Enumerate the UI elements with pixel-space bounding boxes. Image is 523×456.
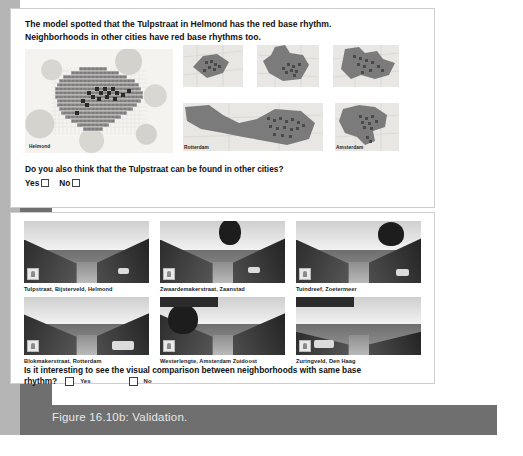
photo-address-overlay — [160, 297, 218, 307]
street-photo-blokmakerstraat[interactable] — [24, 297, 149, 355]
streetview-badge-icon — [163, 340, 175, 352]
streetview-badge-icon — [27, 268, 39, 280]
photo-caption-3: Tuindreef, Zoetermeer — [296, 286, 357, 292]
photo-car — [118, 268, 129, 274]
checkbox-yes-bottom[interactable] — [65, 377, 74, 386]
map-label-helmond: Helmond — [29, 144, 50, 149]
map-thumbnail-group: Zoetermeer Zaanstad — [183, 45, 423, 157]
intro-line-1: The model spotted that the Tulpstraat in… — [25, 18, 423, 31]
question-text-bottom-line-1: Is it interesting to see the visual comp… — [24, 365, 424, 375]
photo-vanishing-point — [349, 335, 369, 355]
photo-caption-6: Zuringveld, Den Haag — [296, 358, 356, 364]
photo-tree — [219, 221, 241, 245]
validation-panel-photos: Tulpstraat, Bijsterveld, Helmond Zwaarde… — [10, 212, 435, 384]
photo-vanishing-point — [213, 335, 233, 355]
map-den-haag[interactable]: Den Haag — [333, 45, 399, 87]
photo-caption-5: Westerlengte, Amsterdam Zuidoost — [160, 358, 257, 364]
map-zaanstad-shape — [257, 45, 319, 87]
option-label-yes-bottom: Yes — [80, 378, 90, 384]
map-helmond[interactable]: Helmond — [25, 49, 173, 153]
map-zaanstad[interactable]: Zaanstad — [257, 45, 319, 87]
street-photo-westerlengte[interactable] — [160, 297, 285, 355]
option-label-yes-top: Yes — [25, 178, 39, 188]
photo-car — [396, 269, 409, 276]
map-label-amsterdam: Amsterdam — [336, 145, 363, 150]
option-label-no-bottom: No — [144, 378, 152, 384]
figure-canvas: The model spotted that the Tulpstraat in… — [0, 0, 523, 456]
question-block-bottom: Is it interesting to see the visual comp… — [24, 365, 424, 386]
map-amsterdam-shape — [335, 103, 399, 151]
street-photo-zwaardemakerstraat[interactable] — [160, 221, 285, 283]
streetview-badge-icon — [27, 340, 39, 352]
map-den-haag-shape — [333, 45, 399, 87]
photo-sky — [24, 297, 149, 324]
checkbox-no-bottom[interactable] — [129, 377, 138, 386]
validation-panel-maps: The model spotted that the Tulpstraat in… — [10, 8, 435, 208]
photo-car — [248, 267, 260, 273]
photo-caption-4: Blokmakerstraat, Rotterdam — [24, 358, 102, 364]
map-zoetermeer-shape — [183, 45, 243, 87]
streetview-badge-icon — [163, 268, 175, 280]
photo-vanishing-point — [349, 262, 369, 283]
street-photo-zuringveld[interactable] — [296, 297, 421, 355]
question-text-top: Do you also think that the Tulpstraat ca… — [25, 164, 283, 174]
answer-options-top: Yes No — [25, 178, 283, 188]
option-label-no-top: No — [59, 178, 70, 188]
intro-line-2: Neighborhoods in other cities have red b… — [25, 31, 423, 44]
streetview-badge-icon — [299, 268, 311, 280]
street-photo-tulpstraat[interactable] — [24, 221, 149, 283]
question-block-top: Do you also think that the Tulpstraat ca… — [25, 164, 283, 188]
photo-tree — [378, 222, 404, 246]
map-helmond-grid — [51, 67, 147, 135]
photo-car — [112, 341, 134, 350]
photo-caption-2: Zwaardemakerstraat, Zaanstad — [160, 286, 245, 292]
street-photo-tuindreef[interactable] — [296, 221, 421, 283]
answer-options-bottom: rhythm? Yes No — [24, 376, 424, 386]
checkbox-no-top[interactable] — [72, 179, 80, 187]
question-text-bottom-line-2: rhythm? — [24, 376, 57, 386]
map-amsterdam[interactable]: Amsterdam — [335, 103, 399, 151]
map-zoetermeer[interactable]: Zoetermeer — [183, 45, 243, 87]
checkbox-yes-top[interactable] — [41, 179, 49, 187]
photo-sky — [24, 221, 149, 250]
figure-caption: Figure 16.10b: Validation. — [52, 411, 187, 423]
photo-tree — [168, 304, 198, 334]
photo-vanishing-point — [77, 262, 97, 283]
map-rotterdam-shape — [183, 103, 323, 151]
intro-text-block: The model spotted that the Tulpstraat in… — [25, 18, 423, 44]
photo-vanishing-point — [213, 262, 233, 283]
photo-address-overlay — [296, 297, 354, 307]
photo-caption-1: Tulpstraat, Bijsterveld, Helmond — [24, 286, 113, 292]
map-label-rotterdam: Rotterdam — [184, 145, 209, 150]
streetview-badge-icon — [299, 340, 311, 352]
map-rotterdam[interactable]: Rotterdam — [183, 103, 323, 151]
photo-car — [314, 340, 334, 348]
photo-vanishing-point — [77, 335, 97, 355]
